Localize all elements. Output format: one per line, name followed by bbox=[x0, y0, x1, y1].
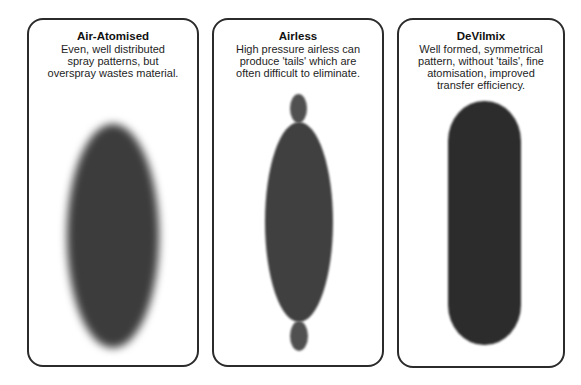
panel-title: DeVilmix bbox=[399, 30, 563, 43]
panel-text: Air-Atomised Even, well distributed spra… bbox=[29, 30, 197, 79]
panel-title: Air-Atomised bbox=[29, 30, 197, 43]
spray-pattern-air-atomised bbox=[67, 124, 159, 348]
panel-title: Airless bbox=[214, 30, 382, 43]
panel-air-atomised: Air-Atomised Even, well distributed spra… bbox=[27, 18, 199, 367]
panel-description: Well formed, symmetrical pattern, withou… bbox=[399, 43, 563, 91]
panel-description: Even, well distributed spray patterns, b… bbox=[29, 43, 197, 79]
spray-tail-top bbox=[290, 94, 307, 123]
panel-text: Airless High pressure airless can produc… bbox=[214, 30, 382, 79]
spray-tail-bottom bbox=[290, 321, 308, 351]
panel-text: DeVilmix Well formed, symmetrical patter… bbox=[399, 30, 563, 91]
panel-devilmix: DeVilmix Well formed, symmetrical patter… bbox=[397, 18, 565, 368]
spray-pattern-airless bbox=[265, 122, 333, 322]
panel-airless: Airless High pressure airless can produc… bbox=[212, 18, 384, 367]
panel-description: High pressure airless can produce 'tails… bbox=[214, 43, 382, 79]
spray-pattern-devilmix bbox=[448, 101, 521, 345]
